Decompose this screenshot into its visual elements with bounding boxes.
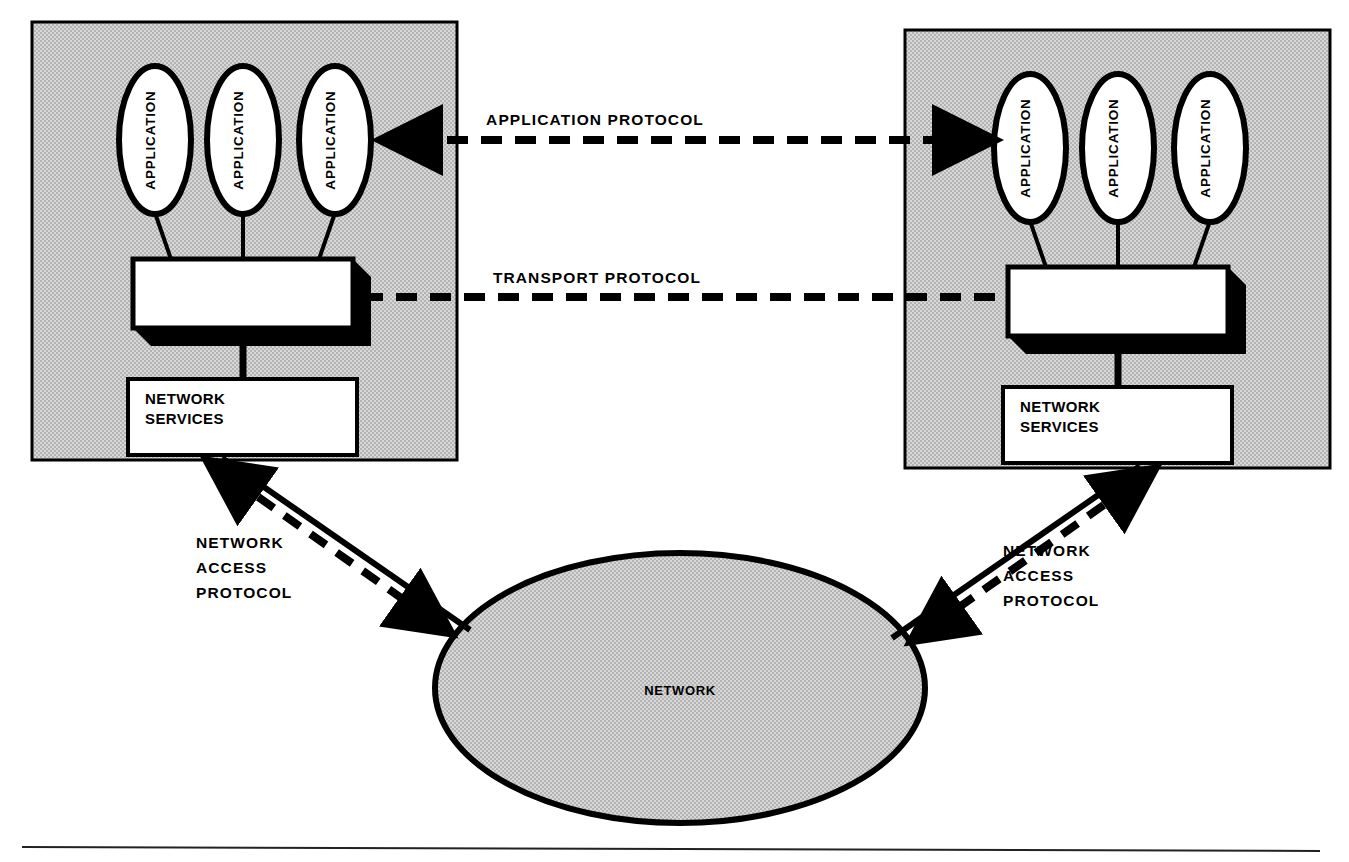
right-transport-box-face	[1008, 267, 1228, 336]
right-network-services-box[interactable]: NETWORK SERVICES	[1003, 387, 1232, 463]
left-application-3-label: APPLICATION	[323, 90, 338, 189]
left-network-services-label-line1: NETWORK	[145, 390, 225, 407]
left-application-3[interactable]: APPLICATION	[299, 66, 371, 214]
left-application-1[interactable]: APPLICATION	[119, 66, 191, 214]
left-network-services-box[interactable]: NETWORK SERVICES	[128, 379, 357, 455]
application-protocol-link: APPLICATION PROTOCOL	[379, 111, 996, 140]
right-application-1[interactable]: APPLICATION	[994, 74, 1066, 222]
right-network-access-label-line1: NETWORK	[1003, 542, 1091, 559]
right-application-2-label: APPLICATION	[1106, 98, 1121, 197]
right-application-3-label: APPLICATION	[1198, 98, 1213, 197]
left-network-access-label-line3: PROTOCOL	[196, 584, 292, 601]
diagram-canvas: NETWORK NETWORK SERVICES APPLICATION	[0, 0, 1349, 862]
left-network-services-label-line2: SERVICES	[145, 410, 224, 427]
right-application-2[interactable]: APPLICATION	[1082, 74, 1154, 222]
left-application-2[interactable]: APPLICATION	[207, 66, 279, 214]
left-transport-box-face	[133, 259, 353, 328]
right-application-3[interactable]: APPLICATION	[1174, 74, 1246, 222]
bottom-divider-rule	[22, 847, 1320, 851]
right-network-services-label-line2: SERVICES	[1020, 418, 1099, 435]
transport-protocol-label: TRANSPORT PROTOCOL	[493, 269, 701, 286]
right-network-access-group: NETWORK ACCESS PROTOCOL	[892, 466, 1156, 642]
right-transport-box[interactable]	[1008, 267, 1246, 354]
network-cloud: NETWORK	[435, 553, 925, 823]
left-network-access-label-line1: NETWORK	[196, 534, 284, 551]
application-protocol-label: APPLICATION PROTOCOL	[486, 111, 704, 128]
left-transport-box[interactable]	[133, 259, 371, 346]
right-network-access-label-line3: PROTOCOL	[1003, 592, 1099, 609]
left-network-access-group: NETWORK ACCESS PROTOCOL	[196, 458, 470, 634]
right-network-services-label-line1: NETWORK	[1020, 398, 1100, 415]
network-cloud-label: NETWORK	[644, 683, 715, 698]
left-network-access-label-line2: ACCESS	[196, 559, 267, 576]
right-application-1-label: APPLICATION	[1018, 98, 1033, 197]
right-network-access-label-line2: ACCESS	[1003, 567, 1074, 584]
left-application-1-label: APPLICATION	[143, 90, 158, 189]
left-application-2-label: APPLICATION	[231, 90, 246, 189]
